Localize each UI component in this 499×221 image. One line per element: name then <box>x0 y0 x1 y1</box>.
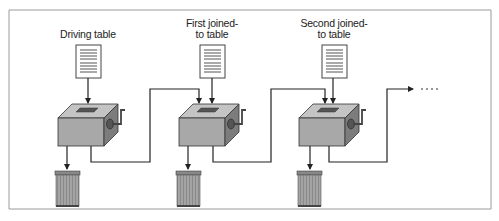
stage-second-joined-to-table <box>297 45 413 207</box>
label-first-line2: to table <box>172 29 252 40</box>
document-icon <box>322 45 347 78</box>
machine-icon <box>58 104 125 146</box>
label-driving-table: Driving table <box>48 29 128 40</box>
trash-bin-icon <box>176 171 201 207</box>
document-icon <box>200 45 225 78</box>
machine-icon <box>299 104 366 146</box>
trash-bin-icon <box>297 171 322 207</box>
document-icon <box>76 45 101 78</box>
label-first-joined-to-table: First joined- to table <box>172 18 252 40</box>
label-second-joined-to-table: Second joined- to table <box>292 18 376 40</box>
machine-icon <box>179 104 246 146</box>
label-second-line2: to table <box>292 29 376 40</box>
continuation-dots <box>421 88 438 90</box>
trash-bin-icon <box>55 171 80 207</box>
